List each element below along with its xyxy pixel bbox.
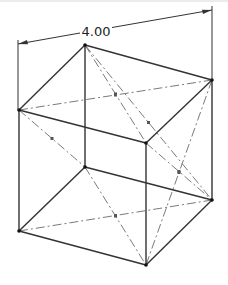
dimension-label: 4.00 (82, 24, 111, 39)
dimension-arrow-left-icon (18, 40, 28, 44)
dimension-arrow-right-icon (202, 10, 212, 14)
vertex-point-icon (83, 165, 87, 169)
cube-edge (85, 167, 212, 200)
cube-edges (19, 45, 212, 265)
vertex-point-icon (144, 263, 148, 267)
cube-edge (19, 167, 85, 231)
centerline-diagonals (19, 45, 212, 265)
midpoint-marker-icon (147, 121, 150, 124)
midpoint-marker-icon (178, 170, 181, 173)
cube-edge (146, 80, 212, 143)
vertex-point-icon (210, 198, 214, 202)
cube-edge (19, 45, 85, 110)
dimension-line-right (112, 10, 212, 28)
cube-edge (146, 200, 212, 265)
cube-drawing: 4.00 (0, 0, 228, 285)
cube-edge (19, 231, 146, 265)
vertex-point-icon (144, 141, 148, 145)
midpoint-marker-icon (51, 137, 54, 140)
vertex-point-icon (83, 43, 87, 47)
cube-vertices (17, 43, 214, 267)
vertex-point-icon (17, 229, 21, 233)
midpoint-marker-icon (114, 215, 117, 218)
midpoint-marker-icon (114, 93, 117, 96)
